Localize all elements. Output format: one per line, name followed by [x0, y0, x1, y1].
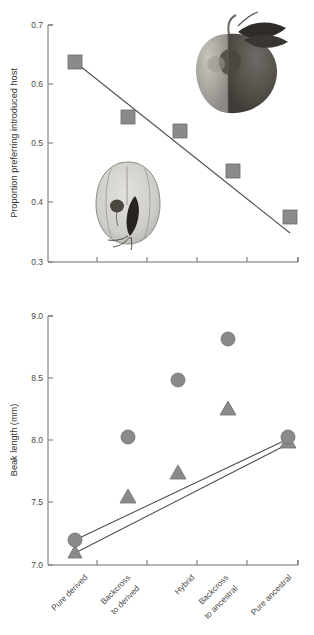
- beak-length-plot: 9.0 8.5 8.0 7.5 7.0 Beak length (mm) Pur…: [0, 300, 314, 635]
- data-point[interactable]: [281, 430, 295, 444]
- y-tick-label: 0.3: [31, 257, 43, 267]
- y-ticks: [48, 25, 53, 262]
- data-point[interactable]: [173, 124, 187, 138]
- data-point[interactable]: [121, 430, 135, 444]
- y-axis-title: Proportion preferring introduced host: [9, 68, 19, 218]
- data-point[interactable]: [120, 489, 136, 503]
- x-category-label: Pure ancestral: [249, 572, 294, 617]
- y-tick-label: 0.5: [31, 138, 43, 148]
- y-tick-labels: 0.7 0.6 0.5 0.4 0.3: [31, 20, 43, 267]
- data-point[interactable]: [226, 164, 240, 178]
- y-tick-label: 0.7: [31, 20, 43, 30]
- x-category-labels: Pure derived Backcross to derived Hybrid…: [49, 572, 293, 621]
- y-ticks: [48, 316, 53, 565]
- x-ticks: [97, 560, 298, 565]
- y-tick-label: 8.5: [31, 373, 43, 383]
- y-tick-labels: 9.0 8.5 8.0 7.5 7.0: [31, 311, 43, 570]
- fruit-cross-section-photo: [96, 162, 160, 250]
- data-point[interactable]: [221, 332, 235, 346]
- host-preference-plot: 0.7 0.6 0.5 0.4 0.3 Proportion preferrin…: [0, 0, 314, 300]
- data-markers-triangles: [68, 401, 296, 558]
- fruit-whole-photo: [196, 12, 288, 113]
- figure: 0.7 0.6 0.5 0.4 0.3 Proportion preferrin…: [0, 0, 314, 635]
- y-tick-label: 9.0: [31, 311, 43, 321]
- y-tick-label: 7.5: [31, 497, 43, 507]
- data-point[interactable]: [171, 373, 185, 387]
- regression-line-triangles: [75, 443, 290, 553]
- x-category-label: Hybrid: [172, 572, 196, 596]
- y-tick-label: 7.0: [31, 560, 43, 570]
- panel-beak-length: 9.0 8.5 8.0 7.5 7.0 Beak length (mm) Pur…: [0, 300, 314, 635]
- data-point[interactable]: [220, 401, 236, 415]
- data-point[interactable]: [68, 533, 82, 547]
- data-point[interactable]: [283, 210, 297, 224]
- data-point[interactable]: [68, 55, 82, 69]
- y-axis-title: Beak length (mm): [9, 404, 19, 477]
- x-ticks: [97, 257, 298, 262]
- regression-line-circles: [75, 438, 290, 540]
- data-point[interactable]: [170, 465, 186, 479]
- x-category-label: Pure derived: [49, 572, 90, 613]
- panel-host-preference: 0.7 0.6 0.5 0.4 0.3 Proportion preferrin…: [0, 0, 314, 300]
- data-markers-circles: [68, 332, 295, 547]
- y-tick-label: 0.6: [31, 79, 43, 89]
- y-tick-label: 0.4: [31, 197, 43, 207]
- y-tick-label: 8.0: [31, 435, 43, 445]
- data-point[interactable]: [121, 110, 135, 124]
